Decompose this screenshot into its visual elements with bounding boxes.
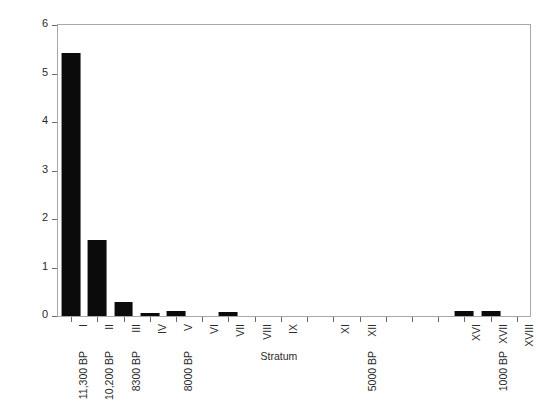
x-tick-line — [517, 317, 518, 322]
bar — [114, 302, 133, 316]
bar — [455, 311, 474, 316]
x-tick-line — [412, 317, 413, 322]
x-tick-line — [333, 317, 334, 322]
bar-slot — [320, 25, 346, 316]
x-tick-label: XVIII — [523, 324, 535, 347]
y-tick-label: 3 — [42, 163, 48, 175]
x-tick-line — [150, 317, 151, 322]
x-tick-line — [438, 317, 439, 322]
x-tick-line — [255, 317, 256, 322]
bar-chart-figure: Percent of Specimens per Stratum 0123456… — [0, 0, 558, 401]
y-tick-label: 0 — [42, 308, 48, 320]
y-tick: 2 — [0, 219, 57, 220]
bar-slot — [346, 25, 372, 316]
bar-slot — [137, 25, 163, 316]
bar-slot — [58, 25, 84, 316]
y-tick: 3 — [0, 171, 57, 172]
x-tick-line — [281, 317, 282, 322]
bar-slot — [425, 25, 451, 316]
bar-slot — [110, 25, 136, 316]
x-tick-line — [491, 317, 492, 322]
bar-slot — [268, 25, 294, 316]
bar — [88, 240, 107, 316]
bar-slot — [399, 25, 425, 316]
x-tick-line — [386, 317, 387, 322]
bar-slot — [451, 25, 477, 316]
bar — [219, 312, 238, 316]
y-tick: 6 — [0, 25, 57, 26]
x-tick-line — [124, 317, 125, 322]
y-tick-label: 2 — [42, 211, 48, 223]
x-axis-title: Stratum — [0, 350, 558, 362]
bar-slot — [504, 25, 530, 316]
y-tick-label: 4 — [42, 114, 48, 126]
bars-layer — [58, 25, 530, 316]
y-tick: 0 — [0, 316, 57, 317]
x-tick-line — [97, 317, 98, 322]
x-tick-line — [71, 317, 72, 322]
x-tick-line — [202, 317, 203, 322]
bar-slot — [189, 25, 215, 316]
bar-slot — [215, 25, 241, 316]
bar-slot — [163, 25, 189, 316]
bar — [140, 313, 159, 316]
bar — [481, 311, 500, 316]
bar — [62, 53, 81, 316]
y-tick-label: 1 — [42, 260, 48, 272]
x-tick-line — [360, 317, 361, 322]
bar-slot — [84, 25, 110, 316]
x-tick-line — [176, 317, 177, 322]
bar-slot — [294, 25, 320, 316]
bar-slot — [478, 25, 504, 316]
y-tick: 1 — [0, 268, 57, 269]
bar — [167, 311, 186, 316]
y-tick: 5 — [0, 74, 57, 75]
bar-slot — [242, 25, 268, 316]
x-tick-line — [464, 317, 465, 322]
bar-slot — [373, 25, 399, 316]
x-tick-line — [307, 317, 308, 322]
y-tick: 4 — [0, 122, 57, 123]
y-tick-label: 6 — [42, 17, 48, 29]
x-tick-line — [228, 317, 229, 322]
y-tick-label: 5 — [42, 66, 48, 78]
